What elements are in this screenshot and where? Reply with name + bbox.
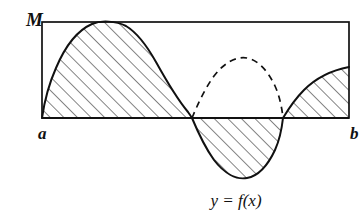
right-endpoint-label-b: b (350, 124, 359, 143)
upper-bound-label-M: M (25, 9, 44, 30)
function-caption-label: y = f(x) (208, 191, 261, 210)
left-endpoint-label-a: a (38, 124, 47, 143)
figure-container: M a b y = f(x) (0, 0, 364, 220)
function-area-figure: M a b y = f(x) (0, 0, 364, 220)
